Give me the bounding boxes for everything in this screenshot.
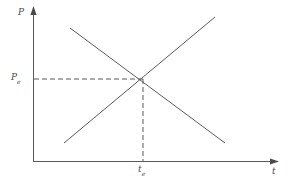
y-axis-arrow-icon (30, 6, 36, 15)
x-axis-arrow-icon (270, 158, 279, 164)
plot-area (0, 0, 289, 183)
y-axis-name-label: P (18, 8, 24, 17)
descending-demand-line (70, 28, 225, 143)
y-tick-subscript: e (17, 78, 21, 85)
y-axis-tick-label-equilibrium-price: Pe (11, 73, 21, 82)
x-axis-name-label: t (272, 167, 276, 176)
x-tick-subscript: e (142, 170, 146, 177)
chart-figure: P t Pe te (0, 0, 289, 183)
x-axis-tick-label-equilibrium-time: te (138, 165, 145, 174)
